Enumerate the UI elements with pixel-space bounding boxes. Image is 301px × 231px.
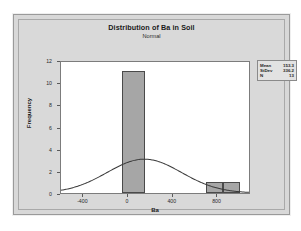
x-tick-label: 800	[201, 198, 231, 204]
x-axis-label: Ba	[60, 207, 250, 213]
y-tick-label: 6	[32, 125, 52, 131]
normal-curve	[61, 62, 249, 193]
y-tick-mark	[57, 128, 60, 129]
y-tick-label: 12	[32, 58, 52, 64]
chart-subtitle: Normal	[14, 33, 289, 39]
statistics-legend-box: Mean153.3StDev336.2N13	[257, 60, 297, 81]
x-tick-mark	[82, 194, 83, 197]
y-tick-mark	[57, 172, 60, 173]
x-tick-label: 0	[112, 198, 142, 204]
y-tick-mark	[57, 150, 60, 151]
x-tick-mark	[216, 194, 217, 197]
y-tick-label: 8	[32, 102, 52, 108]
y-tick-label: 4	[32, 147, 52, 153]
y-tick-label: 0	[32, 191, 52, 197]
statistic-value: 13	[289, 73, 294, 78]
statistic-row: N13	[260, 73, 294, 78]
chart-title: Distribution of Ba in Soil	[14, 23, 289, 32]
chart-screenshot: Distribution of Ba in Soil Normal 024681…	[0, 0, 301, 231]
x-tick-label: -400	[67, 198, 97, 204]
y-axis-label: Frequency	[26, 78, 32, 148]
chart-frame: Distribution of Ba in Soil Normal 024681…	[13, 14, 290, 215]
statistic-key: N	[260, 73, 263, 78]
x-tick-label: 400	[157, 198, 187, 204]
x-tick-mark	[127, 194, 128, 197]
x-tick-mark	[172, 194, 173, 197]
y-tick-mark	[57, 61, 60, 62]
y-tick-mark	[57, 194, 60, 195]
y-tick-mark	[57, 105, 60, 106]
plot-area	[60, 61, 250, 194]
y-tick-label: 2	[32, 169, 52, 175]
plot-inner	[61, 62, 249, 193]
y-tick-mark	[57, 83, 60, 84]
y-tick-label: 10	[32, 80, 52, 86]
